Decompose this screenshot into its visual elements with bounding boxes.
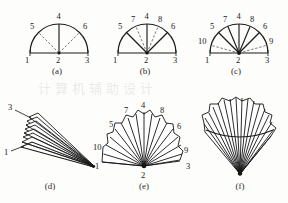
label-a-5: 5 [30, 21, 34, 31]
label-a-3: 3 [85, 55, 89, 65]
figure-root: 计算机辅助设计 1 2 3 4 5 6 (a) [0, 0, 288, 203]
caption-a: (a) [14, 66, 100, 76]
label-e-1: 1 [95, 161, 99, 171]
panel-e-drawing: 1 2 3 4 5 6 7 8 9 10 [92, 100, 196, 182]
watermark-text: 计算机辅助设计 [38, 78, 228, 97]
label-c-7: 7 [223, 14, 227, 24]
label-b-7: 7 [131, 14, 135, 24]
panel-d-drawing: 3 1 [2, 100, 98, 182]
panel-b: 1 2 3 4 5 6 7 8 [102, 4, 188, 66]
label-b-3: 3 [173, 55, 177, 65]
panel-e: 1 2 3 4 5 6 7 8 9 10 [92, 100, 196, 182]
spoke-6 [147, 33, 168, 54]
label-c-4: 4 [237, 11, 242, 21]
label-a-1: 1 [25, 55, 29, 65]
label-a-6: 6 [83, 21, 87, 31]
spoke-7-dashed [136, 26, 147, 53]
spoke-6-dashed [59, 33, 80, 54]
label-c-5: 5 [210, 21, 214, 31]
pivot-point [142, 164, 147, 169]
caption-b: (b) [102, 66, 188, 76]
spoke-7 [228, 26, 239, 53]
caption-c: (c) [190, 66, 282, 76]
label-a-4: 4 [57, 11, 62, 21]
pivot-point [238, 171, 242, 175]
panel-a-drawing: 1 2 3 4 5 6 [14, 4, 100, 66]
label-e-3: 3 [186, 161, 190, 171]
label-b-2: 2 [144, 55, 148, 65]
label-c-2: 2 [236, 55, 240, 65]
label-c-8: 8 [250, 14, 254, 24]
closed-fan-blades [21, 113, 95, 168]
panel-c-drawing: 1 2 3 4 5 6 7 8 9 10 [190, 4, 282, 66]
leader-1 [11, 146, 24, 151]
label-e-10: 10 [93, 142, 102, 152]
label-e-6: 6 [177, 121, 181, 131]
label-d-3: 3 [8, 102, 12, 112]
label-c-1: 1 [205, 55, 209, 65]
caption-e: (e) [92, 181, 196, 191]
label-c-6: 6 [263, 21, 267, 31]
label-e-9: 9 [184, 145, 188, 155]
label-e-4: 4 [141, 100, 146, 110]
label-b-4: 4 [145, 11, 150, 21]
leader-3 [15, 110, 31, 118]
label-c-10: 10 [198, 36, 207, 46]
label-a-2: 2 [56, 55, 60, 65]
label-c-3: 3 [265, 55, 269, 65]
panel-c: 1 2 3 4 5 6 7 8 9 10 [190, 4, 282, 66]
panel-d: 3 1 [2, 100, 98, 182]
label-c-9: 9 [269, 36, 273, 46]
label-b-1: 1 [113, 55, 117, 65]
label-e-7: 7 [124, 105, 128, 115]
caption-d: (d) [2, 181, 98, 191]
label-e-2: 2 [141, 170, 145, 180]
spoke-5 [127, 33, 148, 54]
label-e-8: 8 [160, 105, 164, 115]
panel-a: 1 2 3 4 5 6 [14, 4, 100, 66]
caption-f: (f) [192, 181, 288, 191]
spoke-8 [239, 26, 250, 53]
label-b-8: 8 [158, 14, 162, 24]
label-b-5: 5 [118, 21, 122, 31]
panel-b-drawing: 1 2 3 4 5 6 7 8 [102, 4, 188, 66]
panel-f [192, 96, 288, 182]
label-b-6: 6 [171, 21, 175, 31]
label-e-5: 5 [109, 119, 113, 129]
label-d-1: 1 [4, 147, 8, 157]
spoke-5-dashed [39, 33, 60, 54]
spoke-8-dashed [147, 26, 158, 53]
panel-f-drawing [192, 96, 288, 182]
